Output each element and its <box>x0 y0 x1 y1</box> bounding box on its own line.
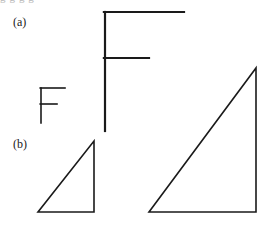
panel-a-shapes <box>40 12 184 131</box>
figure-drawing-canvas <box>0 0 273 233</box>
small-right-triangle <box>38 141 94 212</box>
panel-label-a: (a) <box>13 16 26 28</box>
large-f-glyph <box>104 12 184 131</box>
panel-b-shapes <box>38 68 256 212</box>
small-f-glyph <box>40 88 65 123</box>
large-right-triangle <box>149 68 256 212</box>
panel-label-b: (b) <box>13 138 27 150</box>
figure-container: g g g g (a) (b) <box>0 0 273 233</box>
